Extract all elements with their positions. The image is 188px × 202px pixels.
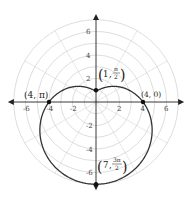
x-tick-label: -2 [70, 105, 77, 113]
data-point [94, 88, 98, 92]
y-axis-arrow-up [93, 14, 99, 20]
y-tick-label: -6 [86, 169, 93, 177]
label-comma: , [109, 160, 112, 170]
x-tick-label: 2 [117, 105, 121, 113]
x-tick-label: 6 [164, 105, 169, 113]
label-den: 2 [114, 73, 118, 80]
close-paren: ) [122, 159, 127, 175]
data-point [47, 100, 51, 104]
y-tick-label: -4 [86, 146, 93, 154]
data-point [94, 182, 98, 186]
x-tick-label: -6 [23, 105, 30, 113]
y-tick-label: -2 [86, 122, 93, 130]
y-tick-label: 4 [86, 52, 91, 60]
x-axis-arrow-left [8, 99, 14, 105]
label-den: 2 [115, 164, 119, 171]
data-point [141, 100, 145, 104]
label-point-7-3pi-over-2: ( 7 , 3π 2 ) [97, 156, 127, 175]
x-axis-arrow-right [178, 99, 184, 105]
close-paren: ) [120, 67, 125, 83]
open-paren: ( [97, 159, 102, 175]
label-point-4-pi: (4, π) [24, 90, 48, 100]
label-num: 3π [113, 156, 121, 163]
label-num: π [114, 65, 118, 72]
label-r: 1 [103, 69, 108, 79]
x-tick-label: 4 [141, 105, 146, 113]
label-r: 7 [103, 160, 108, 170]
y-tick-label: 2 [86, 75, 90, 83]
label-point-1-pi-over-2: ( 1 , π 2 ) [98, 65, 125, 83]
axes [8, 14, 184, 190]
x-tick-label: -4 [47, 105, 54, 113]
label-comma: , [109, 69, 112, 79]
y-tick-label: 6 [86, 28, 91, 36]
label-point-4-0: (4, 0) [141, 90, 161, 99]
polar-chart: -6-4-2246642-2-4-6 (4, 0) (4, π) ( 1 , π… [0, 0, 188, 202]
